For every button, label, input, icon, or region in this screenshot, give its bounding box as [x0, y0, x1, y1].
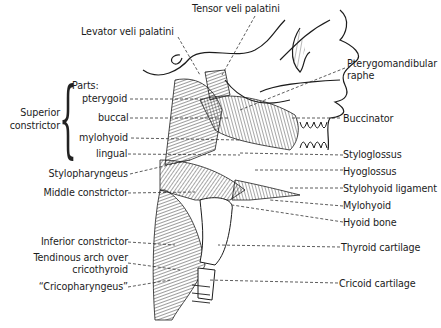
- label-part-buccal: buccal: [98, 112, 129, 123]
- label-part-pterygoid: pterygoid: [82, 93, 127, 104]
- label-hyoid-bone: Hyoid bone: [343, 217, 397, 228]
- teeth: [300, 122, 327, 148]
- mylohyoid-muscle: [232, 180, 300, 200]
- cricoid-cartilage: [198, 268, 215, 300]
- label-tensor-veli-palatini: Tensor veli palatini: [192, 3, 280, 14]
- label-styloglossus: Styloglossus: [343, 149, 402, 160]
- label-buccinator: Buccinator: [343, 113, 393, 124]
- label-pterygomandibular: Pterygomandibular: [347, 58, 437, 69]
- label-part-mylohyoid: mylohyoid: [79, 132, 128, 143]
- label-tendinous-arch-line1: Tendinous arch over: [10, 252, 128, 263]
- label-parts-heading: Parts:: [72, 80, 99, 91]
- label-stylopharyngeus: Stylopharyngeus: [20, 168, 128, 179]
- label-mylohyoid: Mylohyoid: [343, 200, 391, 211]
- label-stylohyoid-ligament: Stylohyoid ligament: [343, 183, 437, 194]
- label-thyroid-cartilage: Thyroid cartilage: [341, 242, 420, 253]
- label-inferior-constrictor: Inferior constrictor: [20, 236, 128, 247]
- label-middle-constrictor: Middle constrictor: [20, 187, 128, 198]
- label-raphe: raphe: [347, 70, 374, 81]
- label-cricoid-cartilage: Cricoid cartilage: [339, 278, 416, 289]
- label-hyoglossus: Hyoglossus: [343, 166, 396, 177]
- anatomy-figure: Tensor veli palatini Levator veli palati…: [0, 0, 441, 328]
- inferior-constrictor-muscle: [153, 190, 205, 320]
- label-superior: Superior: [14, 107, 60, 118]
- label-cricopharyngeus: “Cricopharyngeus”: [10, 281, 128, 292]
- thyroid-cartilage: [200, 198, 232, 265]
- label-levator-veli-palatini: Levator veli palatini: [81, 26, 174, 37]
- middle-constrictor-muscle: [160, 160, 245, 200]
- label-tendinous-arch-line2: cricothyroid: [20, 264, 128, 275]
- label-part-lingual: lingual: [96, 148, 127, 159]
- label-constrictor: constrictor: [4, 120, 60, 131]
